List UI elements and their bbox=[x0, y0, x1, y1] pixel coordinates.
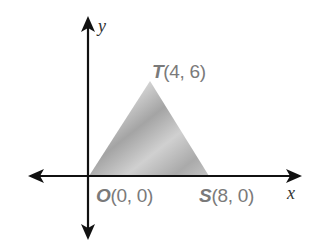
y-axis bbox=[81, 16, 95, 240]
coordinate-diagram: y x T(4, 6) O(0, 0) S(8, 0) bbox=[0, 0, 323, 252]
point-coords-O: (0, 0) bbox=[110, 185, 153, 206]
point-label-O: O(0, 0) bbox=[96, 186, 153, 205]
point-name-O: O bbox=[96, 185, 110, 206]
point-name-S: S bbox=[199, 185, 211, 206]
point-label-S: S(8, 0) bbox=[199, 186, 254, 205]
diagram-canvas bbox=[0, 0, 323, 252]
point-coords-T: (4, 6) bbox=[163, 61, 206, 82]
point-name-T: T bbox=[152, 61, 163, 82]
triangle-OTS bbox=[89, 81, 209, 176]
x-axis-label: x bbox=[287, 184, 295, 202]
y-axis-label: y bbox=[98, 17, 106, 35]
point-coords-S: (8, 0) bbox=[211, 185, 254, 206]
point-label-T: T(4, 6) bbox=[152, 62, 206, 81]
